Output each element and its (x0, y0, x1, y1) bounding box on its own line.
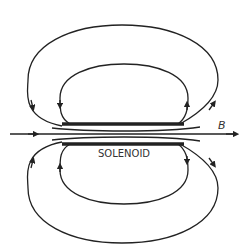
solenoid-label: SOLENOID (98, 148, 150, 159)
field-line-inner-top (60, 64, 188, 124)
solenoid-field-diagram: B SOLENOID (0, 0, 249, 250)
field-label-b: B (218, 119, 226, 132)
field-line-outer-top (27, 25, 218, 126)
